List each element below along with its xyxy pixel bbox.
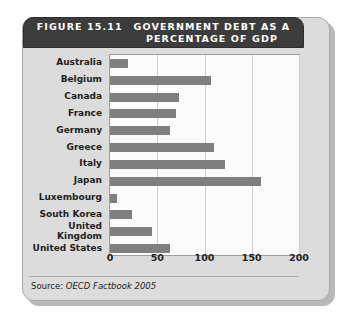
x-axis-tick-label: 100 [195,252,215,263]
figure-panel: FIGURE 15.11 GOVERNMENT DEBT AS A PERCEN… [0,0,347,318]
source-reference: OECD Factbook 2005 [66,281,156,291]
bar [110,160,225,169]
bar [110,227,152,236]
figure-title-banner: FIGURE 15.11 GOVERNMENT DEBT AS A PERCEN… [23,17,304,48]
gridline [252,55,253,255]
y-axis-category-labels: AustraliaBelgiumCanadaFranceGermanyGreec… [23,54,106,256]
y-axis-label: South Korea [23,209,102,219]
x-axis-tick-label: 0 [107,252,114,263]
source-divider [29,276,298,277]
x-axis-tick-label: 200 [289,252,309,263]
x-axis-tick-label: 150 [242,252,262,263]
y-axis-label: Italy [23,158,102,168]
bar [110,76,211,85]
chart-body: AustraliaBelgiumCanadaFranceGermanyGreec… [23,48,304,301]
bar [110,210,132,219]
bar [110,177,261,186]
bar [110,143,214,152]
gridline [157,55,158,255]
bar [110,93,179,102]
bar [110,194,117,203]
source-label: Source: [31,281,63,291]
y-axis-label: United Kingdom [23,221,102,241]
source-note: Source: OECD Factbook 2005 [31,281,156,291]
y-axis-label: Canada [23,91,102,101]
plot-wrapper: AustraliaBelgiumCanadaFranceGermanyGreec… [23,54,304,266]
gridline [205,55,206,255]
y-axis-label: France [23,108,102,118]
plot-area [109,54,300,256]
figure-number-label: FIGURE 15.11 [37,21,123,32]
bar [110,59,128,68]
x-axis-tick-label: 50 [151,252,164,263]
y-axis-label: Greece [23,142,102,152]
x-axis-tick-labels: 050100150200 [109,252,300,268]
y-axis-label: Germany [23,125,102,135]
bar [110,109,176,118]
gridline [299,55,300,255]
y-axis-label: Belgium [23,74,102,84]
y-axis-label: United States [23,243,102,253]
figure-title: GOVERNMENT DEBT AS A PERCENTAGE OF GDP [134,21,291,44]
y-axis-label: Japan [23,175,102,185]
y-axis-label: Australia [23,57,102,67]
bar [110,126,170,135]
y-axis-label: Luxembourg [23,192,102,202]
